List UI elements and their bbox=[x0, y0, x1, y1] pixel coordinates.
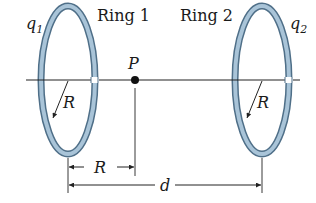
ring-2-radius-label: R bbox=[256, 93, 269, 112]
ring-1-label: Ring 1 bbox=[97, 6, 150, 25]
dim-d-label: d bbox=[160, 176, 170, 195]
point-p-label: P bbox=[127, 54, 139, 73]
q2-label: q2 bbox=[290, 14, 307, 36]
q1-label: q1 bbox=[26, 14, 43, 36]
two-rings-diagram: Ring 1 Ring 2 q1 q2 P R R R d bbox=[0, 0, 316, 203]
ring-1-radius-label: R bbox=[62, 93, 75, 112]
point-p bbox=[131, 76, 139, 84]
dim-r-label: R bbox=[93, 158, 106, 177]
ring-2-label: Ring 2 bbox=[180, 6, 233, 25]
